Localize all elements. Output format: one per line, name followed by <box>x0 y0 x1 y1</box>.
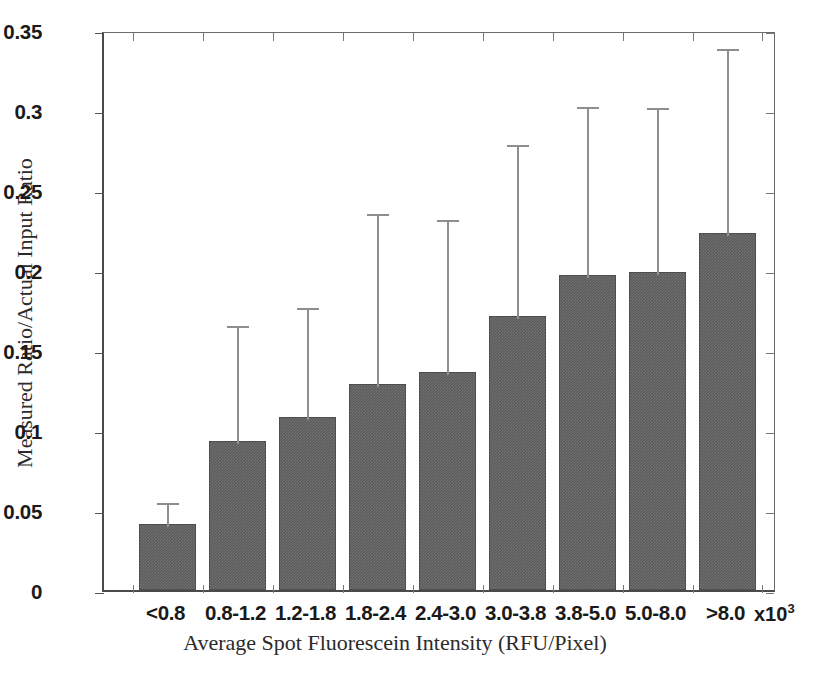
error-bar-stem <box>587 107 589 278</box>
x-axis-tick-label: <0.8 <box>146 601 185 625</box>
x-axis-tick <box>553 585 554 593</box>
x-axis-title: Average Spot Fluorescein Intensity (RFU/… <box>0 630 790 656</box>
y-axis-tick <box>95 193 104 194</box>
x-axis-tick-top <box>133 33 134 41</box>
y-axis-tick-label: 0.2 <box>14 260 42 284</box>
x-axis-tick-label: 3.8-5.0 <box>555 601 616 625</box>
y-axis-tick <box>95 353 104 354</box>
x-axis-tick-label: 5.0-8.0 <box>625 601 686 625</box>
error-bar-stem <box>377 214 379 387</box>
x-axis-tick-top <box>623 33 624 41</box>
error-bar-cap <box>367 214 389 216</box>
x-axis-tick-top <box>413 33 414 41</box>
y-axis-tick-right <box>766 113 774 114</box>
y-axis-tick-label: 0.25 <box>3 180 42 204</box>
y-axis-tick-label: 0 <box>31 580 42 604</box>
y-axis-tick-right <box>766 433 774 434</box>
error-bar-stem <box>237 326 239 444</box>
error-bar-stem <box>727 49 729 236</box>
plot-area <box>102 32 775 592</box>
x-axis-exponent-power: 3 <box>787 601 794 616</box>
error-bar-cap <box>297 308 319 310</box>
x-axis-tick-top <box>343 33 344 41</box>
x-axis-tick-label: 1.2-1.8 <box>275 601 336 625</box>
y-axis-tick <box>95 593 104 594</box>
x-axis-tick <box>483 585 484 593</box>
bar <box>629 272 686 590</box>
error-bar-cap <box>647 108 669 110</box>
x-axis-tick-top <box>762 33 763 41</box>
x-axis-tick-label: 1.8-2.4 <box>345 601 406 625</box>
x-axis-tick-top <box>693 33 694 41</box>
error-bar-cap <box>437 220 459 222</box>
x-axis-exponent-label: x103 <box>754 601 795 626</box>
x-axis-tick <box>203 585 204 593</box>
y-axis-tick-right <box>766 33 774 34</box>
y-axis-tick-right <box>766 193 774 194</box>
error-bar-stem <box>517 145 519 319</box>
x-axis-exponent-base: x10 <box>754 603 787 625</box>
bar <box>559 275 616 590</box>
x-axis-tick <box>273 585 274 593</box>
y-axis-tick <box>95 513 104 514</box>
error-bar-cap <box>157 503 179 505</box>
error-bar-stem <box>167 503 169 527</box>
y-axis-tick-right <box>766 273 774 274</box>
x-axis-tick <box>762 585 763 593</box>
y-axis-tick-label: 0.1 <box>14 420 42 444</box>
error-bar-cap <box>717 49 739 51</box>
error-bar-stem <box>307 308 309 420</box>
x-axis-tick-label: 2.4-3.0 <box>415 601 476 625</box>
error-bar-cap <box>507 145 529 147</box>
x-axis-tick-label: >8.0 <box>706 601 745 625</box>
x-axis-tick-label: 3.0-3.8 <box>485 601 546 625</box>
x-axis-tick <box>133 585 134 593</box>
bar-chart-figure: Measured Ratio/Actual Input Ratio Averag… <box>0 0 825 682</box>
x-axis-tick-top <box>203 33 204 41</box>
y-axis-tick <box>95 113 104 114</box>
bar <box>279 417 336 590</box>
y-axis-tick <box>95 433 104 434</box>
bar <box>699 233 756 590</box>
x-axis-tick-top <box>553 33 554 41</box>
error-bar-cap <box>227 326 249 328</box>
y-axis-tick-right <box>766 353 774 354</box>
x-axis-tick-top <box>273 33 274 41</box>
error-bar-stem <box>657 108 659 274</box>
y-axis-tick-right <box>766 513 774 514</box>
y-axis-tick <box>95 33 104 34</box>
x-axis-tick-top <box>483 33 484 41</box>
x-axis-tick <box>623 585 624 593</box>
y-axis-tick <box>95 273 104 274</box>
x-axis-tick <box>413 585 414 593</box>
y-axis-tick-label: 0.3 <box>14 100 42 124</box>
y-axis-tick-label: 0.15 <box>3 340 42 364</box>
y-axis-tick-label: 0.05 <box>3 500 42 524</box>
error-bar-stem <box>447 220 449 375</box>
bar <box>489 316 546 590</box>
x-axis-tick-label: 0.8-1.2 <box>205 601 266 625</box>
bar <box>419 372 476 590</box>
x-axis-tick <box>693 585 694 593</box>
bar <box>139 524 196 590</box>
bar <box>209 441 266 590</box>
y-axis-tick-label: 0.35 <box>3 20 42 44</box>
x-axis-tick <box>343 585 344 593</box>
y-axis-tick-right <box>766 593 774 594</box>
bar <box>349 384 406 590</box>
error-bar-cap <box>577 107 599 109</box>
